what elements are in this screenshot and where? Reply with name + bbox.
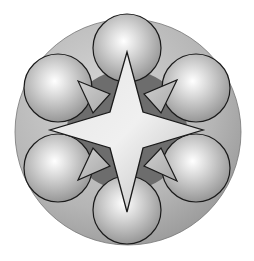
sphere-lower-left <box>24 134 92 202</box>
sphere-lower-right <box>162 134 230 202</box>
emblem-diagram <box>0 0 254 261</box>
